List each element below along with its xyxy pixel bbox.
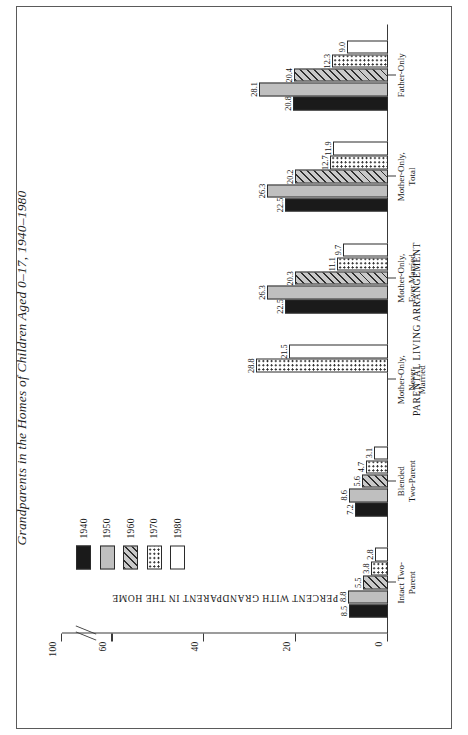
bar-1960: 20.2 [295,170,388,184]
figure-border: Grandparents in the Homes of Children Ag… [16,6,452,729]
bar-1970: 3.8 [371,561,388,575]
legend-swatch-1980 [170,545,185,569]
legend-item-1980: 1980 [170,518,185,569]
bar-value-label: 11.1 [328,257,337,271]
y-axis-tick-label: 40 [190,641,200,667]
bar-1970: 4.7 [366,460,388,474]
legend-item-1950: 1950 [100,518,115,569]
x-axis-title: PARENTAL LIVING ARRANGEMENT [411,24,422,633]
legend-label: 1940 [79,518,89,538]
bar-1950: 26.3 [267,285,388,299]
bar-value-label: 8.5 [340,605,349,615]
legend-item-1940: 1940 [76,518,91,569]
bar-value-label: 7.2 [346,504,355,514]
legend-swatch-1950 [100,545,115,569]
figure-page: Grandparents in the Homes of Children Ag… [0,0,468,735]
bar-value-label: 3.8 [362,563,371,573]
figure-title: Grandparents in the Homes of Children Ag… [14,6,30,729]
bar-1980: 9.0 [347,40,388,54]
bar-1950: 8.8 [348,590,388,604]
legend-swatch-1970 [147,545,162,569]
bar-1980: 21.5 [289,344,388,358]
bar-1970: 28.8 [256,358,388,372]
bar-1940: 22.5 [285,299,388,313]
legend-item-1960: 1960 [123,518,138,569]
bar-group: Blended Two-Parent7.28.65.64.73.1 [62,430,388,532]
category-label: Blended Two-Parent [396,455,417,506]
bar-1960: 5.5 [363,576,388,590]
bar-value-label: 20.2 [286,169,295,184]
bar-group: Mother-Only, Total22.526.320.212.711.9 [62,126,388,228]
bar-value-label: 22.5 [276,299,285,314]
y-axis-tick [387,633,388,641]
y-axis-tick [61,633,62,641]
legend-label: 1960 [126,518,136,538]
y-axis-tick-label: 60 [98,641,108,667]
bar-1960: 20.3 [295,271,388,285]
bar-value-label: 9.7 [334,244,343,254]
bar-1970: 12.7 [330,155,388,169]
bar-value-label: 3.1 [365,447,374,457]
category-axis-tick [388,480,396,481]
category-label: Mother-Only, Never Married [396,354,428,405]
category-label: Mother-Only, Total [396,152,417,201]
bar-1980: 3.1 [374,446,388,460]
category-axis-tick [388,581,396,582]
bar-1960: 20.4 [294,68,388,82]
bar-value-label: 5.5 [354,577,363,587]
bar-1940: 20.8 [293,96,388,110]
bar-value-label: 20.8 [284,96,293,111]
bar-value-label: 11.9 [324,141,333,155]
bar-1950: 26.3 [267,184,388,198]
bar-value-label: 12.3 [323,53,332,68]
bar-1980: 11.9 [333,141,388,155]
bar-group: Father-Only20.828.120.412.39.0 [62,24,388,126]
bar-group: Mother-Only, Never Married28.821.5 [62,329,388,431]
bar-1950: 8.6 [349,488,388,502]
category-axis-tick [388,175,396,176]
bar-value-label: 4.7 [357,461,366,471]
legend-item-1970: 1970 [147,518,162,569]
category-label: Intact Two-Parent [396,557,417,608]
bar-value-label: 26.3 [258,183,267,198]
bar-1980: 9.7 [343,243,388,257]
category-axis-tick [388,277,396,278]
legend: 19401950196019701980 [76,518,194,569]
legend-label: 1980 [173,518,183,538]
bar-value-label: 12.7 [321,155,330,170]
bar-1940: 22.5 [285,198,388,212]
category-axis-tick [388,74,396,75]
bar-1970: 12.3 [332,54,388,68]
y-axis-tick-label: 0 [374,641,384,667]
bar-1970: 11.1 [337,257,388,271]
y-axis-tick [203,633,204,641]
bar-value-label: 20.3 [286,270,295,285]
bar-value-label: 5.6 [353,476,362,486]
legend-label: 1970 [149,518,159,538]
bar-1960: 5.6 [362,474,388,488]
bar-1950: 28.1 [259,82,388,96]
bar-1940: 7.2 [355,502,388,516]
bar-value-label: 9.0 [338,41,347,51]
bar-value-label: 26.3 [258,285,267,300]
bar-value-label: 22.5 [276,197,285,212]
bar-group: Mother-Only, Ever Married22.526.320.311.… [62,227,388,329]
category-label: Father-Only [396,53,407,97]
bar-value-label: 28.8 [247,358,256,373]
bar-value-label: 8.8 [339,591,348,601]
legend-swatch-1940 [76,545,91,569]
y-axis-tick [111,633,112,641]
bar-value-label: 2.8 [366,549,375,559]
bar-value-label: 20.4 [285,67,294,82]
bar-1980: 2.8 [375,547,388,561]
y-axis-tick [295,633,296,641]
category-label: Mother-Only, Ever Married [396,253,417,302]
category-axis-tick [388,378,396,379]
y-axis-tick-label: 100 [48,641,58,667]
bar-value-label: 21.5 [280,344,289,359]
legend-swatch-1960 [123,545,138,569]
bar-value-label: 28.1 [250,82,259,97]
bar-1940: 8.5 [349,604,388,618]
legend-label: 1950 [102,518,112,538]
y-axis-tick-label: 20 [282,641,292,667]
